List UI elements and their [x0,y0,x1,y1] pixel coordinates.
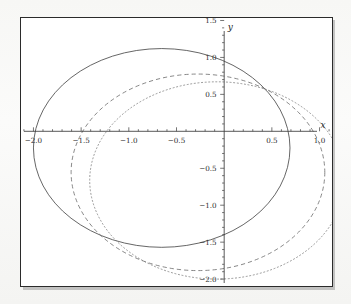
curve-dotted-circle [90,82,332,279]
y-tick-label: 0.5 [205,90,217,99]
y-tick-label: 1.5 [205,18,217,25]
x-tick-label: 0.5 [266,136,278,145]
x-axis-label: x [320,120,325,130]
y-tick-label: 1.0 [205,53,217,62]
x-tick-label: −2.0 [25,136,43,145]
curve-dashed-circle [71,74,325,271]
x-tick-label: −0.5 [168,136,186,145]
y-tick-label: −2.0 [199,275,217,284]
y-axis-label: y [227,22,234,32]
y-tick-label: −1.5 [199,238,217,247]
y-tick-label: −0.5 [199,164,217,173]
x-tick-label: −1.0 [120,136,138,145]
x-tick-label: −1.5 [72,136,90,145]
curve-solid-circle [33,49,290,248]
axes-layer [24,31,317,283]
x-tick-label: 1.0 [314,136,326,145]
curves-layer [33,49,332,280]
ticks-layer [24,20,329,279]
tick-labels-layer: −2.0−1.5−1.0−0.50.51.01.51.00.5−0.5−1.0−… [25,18,326,284]
plot-frame: −2.0−1.5−1.0−0.50.51.01.51.00.5−0.5−1.0−… [20,17,333,287]
y-tick-label: −1.0 [199,201,217,210]
page-wrapper: −2.0−1.5−1.0−0.50.51.01.51.00.5−0.5−1.0−… [0,0,351,304]
plot-canvas: −2.0−1.5−1.0−0.50.51.01.51.00.5−0.5−1.0−… [21,18,332,286]
